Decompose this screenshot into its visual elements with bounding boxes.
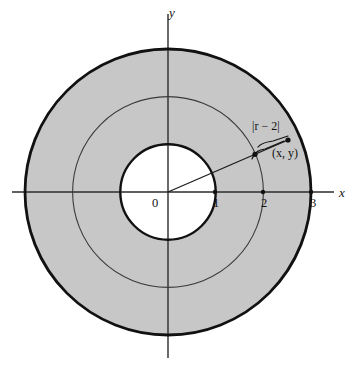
- polar-annulus-figure: y x 0 1 2 3 |r − 2| (x, y): [0, 0, 359, 365]
- point-xy-dot: [285, 137, 290, 142]
- origin-label: 0: [152, 196, 158, 210]
- tick-dot-1: [213, 190, 217, 194]
- tick-label-1: 1: [213, 196, 219, 210]
- tick-label-2: 2: [261, 196, 267, 210]
- x-axis-label: x: [338, 185, 345, 200]
- tick-label-3: 3: [310, 196, 316, 210]
- tick-dot-3: [309, 190, 313, 194]
- point-xy-label: (x, y): [272, 146, 298, 160]
- y-axis-label: y: [167, 5, 175, 20]
- figure-canvas: y x 0 1 2 3 |r − 2| (x, y): [0, 0, 359, 365]
- distance-annotation-label: |r − 2|: [252, 119, 280, 133]
- tick-dot-2: [261, 190, 265, 194]
